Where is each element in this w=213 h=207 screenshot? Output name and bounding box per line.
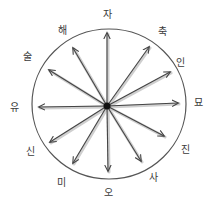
branch-label-sa: 사 [149, 173, 158, 183]
center-hub [104, 103, 111, 110]
branch-label-chuk: 축 [158, 27, 167, 37]
branch-label-sin: 신 [26, 147, 35, 157]
branch-label-yu: 유 [10, 103, 19, 113]
branch-label-myo: 묘 [194, 98, 203, 108]
branch-label-o: 오 [104, 188, 113, 198]
branch-label-in: 인 [176, 58, 185, 68]
branch-label-sul: 술 [23, 52, 32, 62]
arrow-8 [73, 106, 107, 163]
branch-label-mi: 미 [57, 178, 66, 188]
branch-label-ja: 자 [103, 10, 112, 20]
branch-label-jin: 진 [181, 145, 190, 155]
earthly-branches-diagram [0, 0, 213, 207]
branch-label-hae: 해 [58, 26, 67, 36]
arrow-3 [107, 72, 170, 106]
